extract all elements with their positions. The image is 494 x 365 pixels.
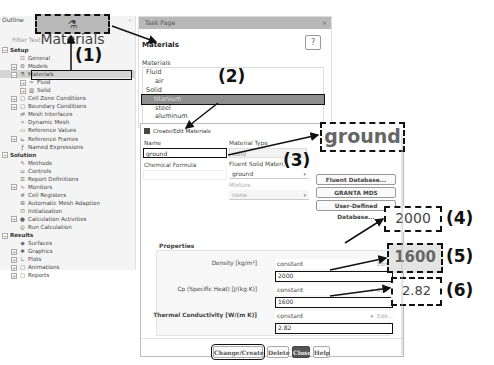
tree-item-general[interactable]: ☷General bbox=[0, 54, 135, 62]
expand-icon[interactable]: + bbox=[11, 184, 17, 190]
change-create-button[interactable]: Change/Create bbox=[213, 346, 263, 358]
tree-item-label: Plots bbox=[28, 256, 41, 262]
chemical-formula-label: Chemical Formula bbox=[144, 162, 196, 168]
cp-method-select[interactable]: constant ▾ Edit... bbox=[275, 285, 395, 295]
expand-icon[interactable]: + bbox=[11, 257, 17, 263]
tree-item-plots[interactable]: +∟Plots bbox=[0, 255, 135, 263]
help-button[interactable]: Help bbox=[313, 346, 330, 358]
pin-icon[interactable]: ‹ bbox=[129, 16, 131, 23]
collapse-icon[interactable]: − bbox=[2, 152, 8, 158]
mesh-adaption-icon: ⊞ bbox=[19, 199, 26, 207]
spacer bbox=[11, 225, 17, 231]
expand-icon[interactable]: + bbox=[11, 104, 17, 110]
expand-icon[interactable]: + bbox=[20, 80, 26, 86]
cell-registers-icon: # bbox=[19, 191, 26, 199]
collapse-icon[interactable]: − bbox=[2, 233, 8, 239]
tree-item-results[interactable]: −Results bbox=[0, 231, 135, 239]
close-icon[interactable]: × bbox=[322, 17, 327, 29]
tree-item-label: Reports bbox=[28, 272, 49, 278]
tree-item-animations[interactable]: +▢Animations bbox=[0, 263, 135, 271]
expand-icon[interactable]: + bbox=[11, 64, 17, 70]
tag-5: (5) bbox=[446, 246, 473, 266]
mixture-select[interactable]: none ▾ bbox=[229, 190, 309, 200]
name-input[interactable]: ground bbox=[143, 148, 227, 158]
expand-icon[interactable]: + bbox=[11, 273, 17, 279]
delete-button[interactable]: Delete bbox=[267, 346, 289, 358]
tree-item-controls[interactable]: ⚌Controls bbox=[0, 167, 135, 175]
thermal-conductivity-method-select[interactable]: constant ▾ Edit... bbox=[275, 311, 395, 321]
tree-item-boundary-conditions[interactable]: +▢Boundary Conditions bbox=[0, 102, 135, 110]
help-icon[interactable]: ? bbox=[305, 35, 321, 50]
expand-icon[interactable]: + bbox=[11, 216, 17, 222]
tree-item-solution[interactable]: −Solution bbox=[0, 151, 135, 159]
tree-item-cell-zone-conditions[interactable]: +▢Cell Zone Conditions bbox=[0, 94, 135, 102]
collapse-icon[interactable]: − bbox=[11, 72, 17, 78]
density-method-select[interactable]: constant Edit... bbox=[275, 259, 395, 269]
fluent-solid-select[interactable]: ground ▾ bbox=[229, 169, 309, 179]
tree-item-solid[interactable]: +▥Solid bbox=[0, 86, 135, 94]
thermal-conductivity-edit-button[interactable]: Edit... bbox=[377, 311, 393, 321]
expand-icon[interactable]: + bbox=[11, 249, 17, 255]
tree-item-label: Controls bbox=[28, 168, 51, 174]
spacer bbox=[11, 241, 17, 247]
properties-title: Properties bbox=[159, 242, 194, 249]
tree-item-monitors[interactable]: +∿Monitors bbox=[0, 183, 135, 191]
expand-icon[interactable]: + bbox=[20, 88, 26, 94]
callout-density: 2000 bbox=[384, 206, 442, 232]
tree-item-label: Cell Zone Conditions bbox=[28, 95, 86, 101]
tree-item-models[interactable]: +⚙Models bbox=[0, 62, 135, 70]
chemical-formula-input[interactable] bbox=[143, 170, 227, 180]
tree-item-report-definitions[interactable]: ☰Report Definitions bbox=[0, 175, 135, 183]
spacer bbox=[11, 168, 17, 174]
tree-item-run-calculation[interactable]: ◎Run Calculation bbox=[0, 223, 135, 231]
material-item-titanium[interactable]: titanium bbox=[142, 95, 324, 104]
graphics-icon: ✱ bbox=[19, 247, 26, 255]
dialog-title: Create/Edit Materials bbox=[144, 128, 211, 134]
granta-mds-database-button[interactable]: GRANTA MDS Database... bbox=[316, 187, 396, 198]
tree-item-setup[interactable]: −Setup bbox=[0, 46, 135, 54]
tree-item-graphics[interactable]: +✱Graphics bbox=[0, 247, 135, 255]
filter-input[interactable]: Filter Text bbox=[12, 36, 41, 43]
tree-item-reference-values[interactable]: ▭Reference Values bbox=[0, 126, 135, 134]
tree-item-label: Results bbox=[10, 232, 33, 238]
tree-item-mesh-interfaces[interactable]: ⇄Mesh Interfaces bbox=[0, 110, 135, 118]
density-value-input[interactable]: 2000 bbox=[275, 271, 393, 282]
cp-value-input[interactable]: 1600 bbox=[275, 297, 393, 308]
material-item-aluminum[interactable]: aluminum bbox=[143, 112, 323, 121]
tree-item-surfaces[interactable]: ◆Surfaces bbox=[0, 239, 135, 247]
materials-icon: ⚗ bbox=[68, 18, 78, 31]
tree-item-label: Calculation Activities bbox=[28, 216, 87, 222]
expand-icon[interactable]: + bbox=[11, 96, 17, 102]
collapse-icon[interactable]: − bbox=[2, 47, 8, 53]
tree-item-label: Surfaces bbox=[28, 240, 52, 246]
thermal-conductivity-value-input[interactable]: 2.82 bbox=[275, 323, 393, 334]
spacer bbox=[11, 192, 17, 198]
tree-item-initialization[interactable]: ⊡Initialization bbox=[0, 207, 135, 215]
material-group-solid[interactable]: Solid bbox=[143, 86, 323, 95]
surfaces-icon: ◆ bbox=[19, 239, 26, 247]
material-item-steel[interactable]: steel bbox=[143, 104, 323, 113]
close-button[interactable]: Close bbox=[292, 346, 310, 358]
tree-item-cell-registers[interactable]: #Cell Registers bbox=[0, 191, 135, 199]
expand-icon[interactable]: + bbox=[11, 136, 17, 142]
expand-icon[interactable]: + bbox=[11, 265, 17, 271]
tree-item-label: Reference Frames bbox=[28, 136, 78, 142]
mixture-value: none bbox=[232, 191, 247, 198]
chevron-down-icon: ▾ bbox=[303, 169, 306, 179]
plots-icon: ∟ bbox=[19, 255, 26, 263]
fluent-solid-value: ground bbox=[232, 170, 253, 177]
tree-item-methods[interactable]: ✎Methods bbox=[0, 159, 135, 167]
callout-materials: ⚗ Materials bbox=[35, 14, 110, 34]
callout-k: 2.82 bbox=[391, 277, 442, 306]
tree-item-reports[interactable]: +▢Reports bbox=[0, 271, 135, 279]
tree-item-calculation-activities[interactable]: +●Calculation Activities bbox=[0, 215, 135, 223]
tree-item-automatic-mesh-adaption[interactable]: ⊞Automatic Mesh Adaption bbox=[0, 199, 135, 207]
fluent-database-button[interactable]: Fluent Database... bbox=[316, 174, 396, 185]
run-calculation-icon: ◎ bbox=[19, 223, 26, 231]
density-label: Density [kg/m³] bbox=[212, 260, 257, 266]
tree-item-dynamic-mesh[interactable]: ⌗Dynamic Mesh bbox=[0, 118, 135, 126]
tree-item-reference-frames[interactable]: +⊾Reference Frames bbox=[0, 135, 135, 143]
tree-item-label: Monitors bbox=[28, 184, 52, 190]
task-page-title: Materials bbox=[142, 41, 179, 49]
tree-item-named-expressions[interactable]: ƒNamed Expressions bbox=[0, 143, 135, 151]
